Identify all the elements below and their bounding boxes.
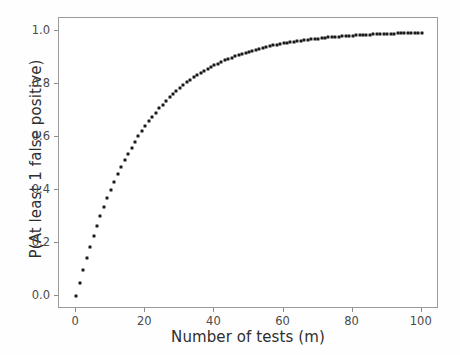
data-point	[113, 180, 116, 183]
data-point	[178, 87, 181, 90]
x-tick-label: 60	[275, 314, 290, 328]
data-point	[75, 294, 78, 297]
data-point	[137, 135, 140, 138]
x-tick-label: 80	[344, 314, 359, 328]
y-tick-label: 0.2	[32, 235, 50, 249]
x-axis-label: Number of tests (m)	[171, 328, 325, 346]
figure-canvas: P(At least 1 false positive) 0.00.20.40.…	[0, 0, 460, 355]
data-point	[106, 196, 109, 199]
data-point	[175, 90, 178, 93]
x-tick-label: 100	[410, 314, 432, 328]
data-point	[120, 166, 123, 169]
plot-area	[58, 17, 438, 308]
data-point	[123, 159, 126, 162]
y-tick-label: 1.0	[32, 23, 50, 37]
scatter-series	[59, 18, 437, 307]
data-point	[151, 115, 154, 118]
data-point	[109, 188, 112, 191]
x-tick-label: 0	[72, 314, 79, 328]
data-point	[172, 93, 175, 96]
data-point	[165, 99, 168, 102]
x-tick-mark	[283, 308, 284, 312]
data-point	[161, 103, 164, 106]
data-point	[182, 84, 185, 87]
data-point	[96, 224, 99, 227]
x-tick-label: 40	[206, 314, 221, 328]
data-point	[147, 120, 150, 123]
y-tick-label: 0.6	[32, 129, 50, 143]
data-point	[134, 140, 137, 143]
x-tick-mark	[75, 308, 76, 312]
data-point	[130, 146, 133, 149]
data-point	[85, 257, 88, 260]
x-tick-mark	[213, 308, 214, 312]
data-point	[99, 214, 102, 217]
data-point	[144, 125, 147, 128]
y-axis-label: P(At least 1 false positive)	[27, 19, 45, 299]
data-point	[102, 205, 105, 208]
x-tick-mark	[352, 308, 353, 312]
data-point	[89, 245, 92, 248]
data-point	[116, 173, 119, 176]
x-tick-mark	[144, 308, 145, 312]
data-point	[158, 107, 161, 110]
data-point	[92, 234, 95, 237]
x-axis-label-wrapper: Number of tests (m)	[0, 328, 460, 346]
x-tick-mark	[421, 308, 422, 312]
data-point	[127, 152, 130, 155]
data-point	[82, 268, 85, 271]
y-tick-label: 0.0	[32, 288, 50, 302]
data-point	[189, 78, 192, 81]
data-point	[420, 31, 423, 34]
y-tick-label: 0.4	[32, 182, 50, 196]
x-tick-label: 20	[137, 314, 152, 328]
data-point	[168, 96, 171, 99]
data-point	[154, 111, 157, 114]
data-point	[185, 81, 188, 84]
y-tick-label: 0.8	[32, 76, 50, 90]
data-point	[140, 130, 143, 133]
data-point	[78, 281, 81, 284]
